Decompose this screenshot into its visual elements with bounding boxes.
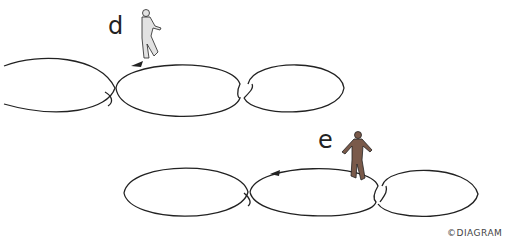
tracing-row-d (4, 58, 344, 116)
figure-skating-diagram (0, 0, 516, 252)
copyright-credit: ©DIAGRAM (447, 228, 502, 238)
skater-d-icon (142, 10, 161, 59)
label-e: e (318, 128, 333, 152)
label-d: d (108, 14, 123, 38)
direction-arrow-d (131, 61, 143, 67)
tracing-row-e (124, 168, 478, 216)
